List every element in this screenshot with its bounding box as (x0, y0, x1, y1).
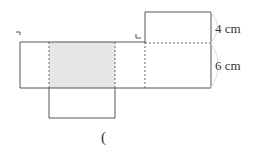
corner-mark-left (16, 32, 20, 35)
answer-paren: ( (101, 130, 106, 145)
bottom-flap (49, 88, 115, 118)
main-strip-outline (20, 42, 211, 88)
top-flap (145, 12, 211, 88)
corner-mark-mid (136, 34, 141, 38)
label-4cm: 4 cm (215, 22, 241, 35)
shaded-face (49, 42, 115, 88)
label-6cm: 6 cm (215, 59, 241, 72)
